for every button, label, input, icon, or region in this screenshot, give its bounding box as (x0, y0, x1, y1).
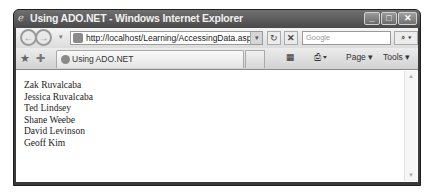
window-title: Using ADO.NET - Windows Internet Explore… (30, 12, 243, 24)
tab-label: Using ADO.NET (72, 54, 133, 64)
close-button[interactable]: ✕ (398, 12, 417, 25)
list-item: Zak Ruvalcaba (24, 80, 93, 92)
tools-menu-button[interactable]: Tools ▾ (383, 52, 410, 62)
scroll-up-button[interactable]: ▲ (406, 72, 416, 81)
list-item: Ted Lindsey (24, 103, 93, 115)
maximize-button[interactable]: □ (381, 12, 397, 25)
list-item: Shane Weebe (24, 115, 93, 127)
title-bar[interactable]: ℯ Using ADO.NET - Windows Internet Explo… (14, 10, 420, 28)
address-url[interactable]: http://localhost/Learning/AccessingData.… (86, 33, 256, 43)
search-input[interactable]: Google (302, 31, 391, 45)
tab-bar: ★ ✚ Using ADO.NET ▦ ⎙ ▾ Page ▾ Tools ▾ (16, 48, 418, 70)
address-dropdown-button[interactable]: ▾ (250, 32, 262, 44)
page-menu-button[interactable]: Page ▾ (346, 52, 373, 62)
new-tab-button[interactable] (245, 50, 265, 68)
favorites-star-icon[interactable]: ★ (20, 52, 30, 65)
stop-button[interactable]: ✕ (284, 31, 298, 45)
add-favorites-icon[interactable]: ✚ (36, 52, 45, 65)
page-icon (73, 33, 83, 43)
list-item: David Levinson (24, 126, 93, 138)
page-content: Zak Ruvalcaba Jessica Ruvalcaba Ted Lind… (16, 70, 418, 182)
refresh-button[interactable]: ↻ (267, 31, 281, 45)
tab-page-icon (61, 55, 70, 64)
print-button[interactable]: ⎙ ▾ (314, 52, 327, 63)
recent-pages-dropdown[interactable]: ▾ (59, 33, 63, 41)
tab-active[interactable]: Using ADO.NET (56, 50, 244, 68)
list-item: Geoff Kim (24, 138, 93, 150)
home-icon[interactable]: ▦ (286, 52, 295, 62)
browser-window: ℯ Using ADO.NET - Windows Internet Explo… (13, 9, 421, 186)
list-item: Jessica Ruvalcaba (24, 92, 93, 104)
navigation-bar: ← → ▾ http://localhost/Learning/Accessin… (16, 28, 418, 48)
scroll-down-button[interactable]: ▼ (406, 171, 416, 180)
nav-buttons: ← → (20, 29, 50, 46)
ie-logo-icon: ℯ (18, 13, 28, 23)
address-bar[interactable]: http://localhost/Learning/AccessingData.… (70, 31, 263, 45)
minimize-button[interactable]: _ (364, 12, 380, 25)
search-button[interactable]: ⌕ ▾ (394, 31, 418, 45)
vertical-scrollbar[interactable]: ▲ ▼ (404, 71, 417, 181)
forward-button[interactable]: → (35, 29, 52, 46)
window-controls: _ □ ✕ (364, 12, 417, 25)
names-list: Zak Ruvalcaba Jessica Ruvalcaba Ted Lind… (24, 80, 93, 149)
